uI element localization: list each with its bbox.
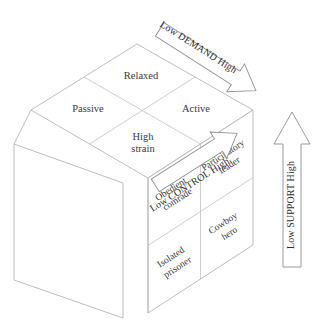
support-axis-label: Low SUPPORT High — [285, 161, 296, 249]
diagram-canvas: Relaxed Passive Active High strain Parti… — [0, 0, 313, 334]
support-axis: Low SUPPORT High — [0, 0, 313, 334]
